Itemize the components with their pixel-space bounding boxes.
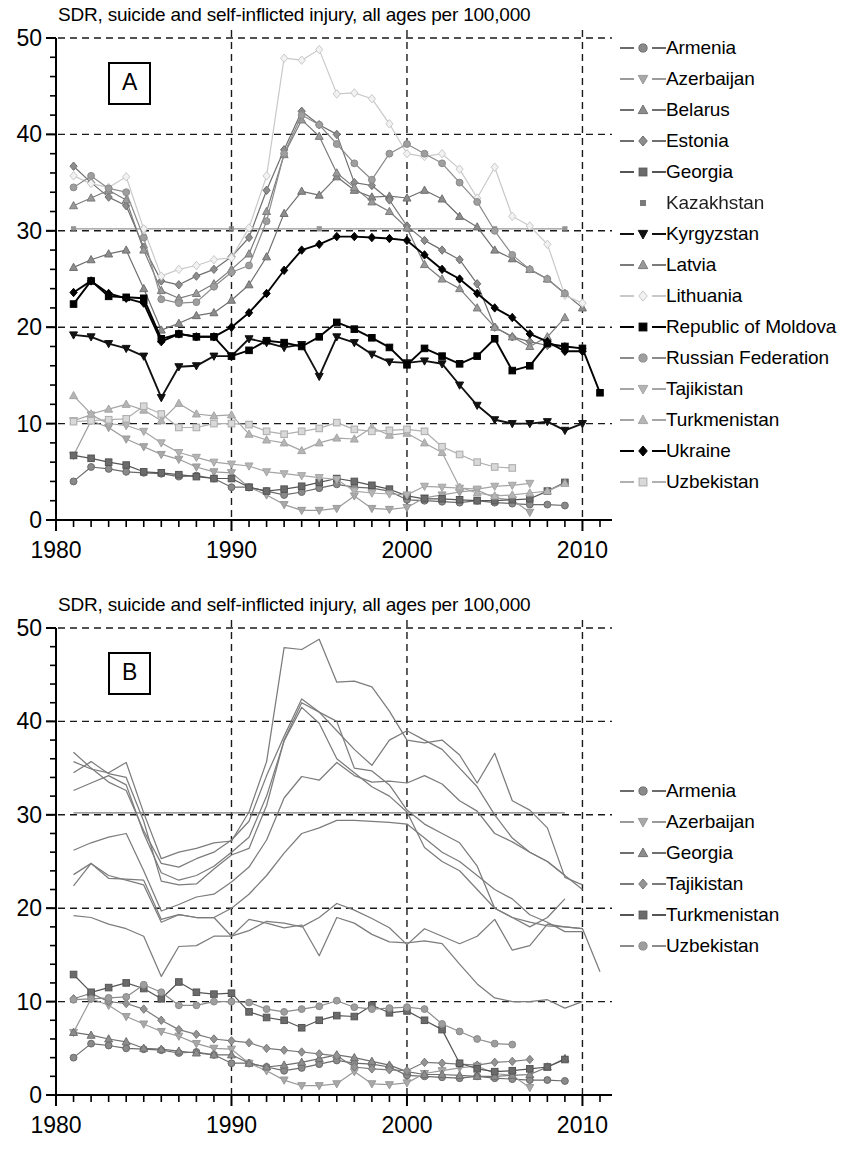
y-tick-label: 10 xyxy=(16,411,42,437)
legend-item-kazakhstan[interactable]: Kazakhstan xyxy=(620,187,836,218)
legend-label: Lithuania xyxy=(666,285,742,307)
y-tick-label: 40 xyxy=(16,121,42,147)
legend-label: Azerbaijan xyxy=(666,811,755,833)
legend-item-uzbekistan[interactable]: Uzbekistan xyxy=(620,466,836,497)
legend-item-kyrgyzstan[interactable]: Kyrgyzstan xyxy=(620,218,836,249)
legend-label: Turkmenistan xyxy=(666,904,779,926)
legend-label: Georgia xyxy=(666,842,733,864)
legend-marker-triangle-down-icon xyxy=(620,70,666,88)
legend-marker-circle-icon xyxy=(620,349,666,367)
plot-area-b: 010203040501980199020002010 xyxy=(0,590,620,1175)
y-tick-label: 30 xyxy=(16,802,42,828)
legend-label: Republic of Moldova xyxy=(666,316,836,338)
legend-marker-triangle-down-filled-icon xyxy=(620,225,666,243)
legend-marker-circle-icon xyxy=(620,937,666,955)
legend-marker-circle-icon xyxy=(620,782,666,800)
legend-item-georgia[interactable]: Georgia xyxy=(620,837,779,868)
x-tick-label: 2010 xyxy=(557,1112,608,1138)
legend-marker-square-icon xyxy=(620,906,666,924)
x-tick-label: 2000 xyxy=(381,1112,432,1138)
legend-item-turkmenistan[interactable]: Turkmenistan xyxy=(620,404,836,435)
legend-label: Tajikistan xyxy=(666,378,743,400)
legend-item-armenia[interactable]: Armenia xyxy=(620,32,836,63)
legend-label: Belarus xyxy=(666,99,730,121)
plot-svg-b: 010203040501980199020002010 xyxy=(0,590,620,1175)
legend-item-republic-of-moldova[interactable]: Republic of Moldova xyxy=(620,311,836,342)
legend-marker-triangle-down-icon xyxy=(620,813,666,831)
legend-item-russian-federation[interactable]: Russian Federation xyxy=(620,342,836,373)
legend-marker-circle-icon xyxy=(620,39,666,57)
y-tick-label: 0 xyxy=(29,1082,42,1108)
legend-item-latvia[interactable]: Latvia xyxy=(620,249,836,280)
legend-label: Kazakhstan xyxy=(666,192,764,214)
legend-marker-triangle-up-icon xyxy=(620,844,666,862)
series-russian-federation xyxy=(70,112,568,307)
legend-label: Uzbekistan xyxy=(666,935,759,957)
legend-marker-diamond-icon xyxy=(620,132,666,150)
legend-marker-diamond-filled-icon xyxy=(620,442,666,460)
legend-a: ArmeniaAzerbaijanBelarusEstoniaGeorgiaKa… xyxy=(620,32,836,497)
legend-item-uzbekistan[interactable]: Uzbekistan xyxy=(620,930,779,961)
legend-item-armenia[interactable]: Armenia xyxy=(620,775,779,806)
background-line xyxy=(74,703,565,885)
y-tick-label: 20 xyxy=(16,314,42,340)
y-tick-label: 10 xyxy=(16,989,42,1015)
legend-label: Armenia xyxy=(666,37,736,59)
legend-b: ArmeniaAzerbaijanGeorgiaTajikistanTurkme… xyxy=(620,775,779,961)
legend-marker-triangle-up-icon xyxy=(620,101,666,119)
background-line xyxy=(74,916,583,1008)
series-kyrgyzstan xyxy=(70,332,587,435)
panel-tag-b: B xyxy=(108,652,151,695)
x-tick-label: 1980 xyxy=(30,1112,81,1138)
chart-panel-b: SDR, suicide and self-inflicted injury, … xyxy=(0,590,859,1175)
legend-item-turkmenistan[interactable]: Turkmenistan xyxy=(620,899,779,930)
legend-label: Tajikistan xyxy=(666,873,743,895)
legend-marker-square-filled-icon xyxy=(620,318,666,336)
legend-label: Latvia xyxy=(666,254,716,276)
legend-label: Armenia xyxy=(666,780,736,802)
legend-item-tajikistan[interactable]: Tajikistan xyxy=(620,868,779,899)
legend-label: Estonia xyxy=(666,130,729,152)
legend-item-tajikistan[interactable]: Tajikistan xyxy=(620,373,836,404)
x-tick-label: 2000 xyxy=(381,537,432,563)
series-uzbekistan xyxy=(70,981,516,1048)
legend-marker-triangle-up-icon xyxy=(620,256,666,274)
legend-marker-diamond-icon xyxy=(620,875,666,893)
chart-panel-a: SDR, suicide and self-inflicted injury, … xyxy=(0,0,859,570)
x-tick-label: 1990 xyxy=(206,1112,257,1138)
data-series-group xyxy=(70,45,604,516)
legend-label: Azerbaijan xyxy=(666,68,755,90)
legend-label: Turkmenistan xyxy=(666,409,779,431)
legend-item-lithuania[interactable]: Lithuania xyxy=(620,280,836,311)
y-tick-label: 20 xyxy=(16,895,42,921)
legend-item-azerbaijan[interactable]: Azerbaijan xyxy=(620,806,779,837)
x-tick-label: 1980 xyxy=(30,537,81,563)
x-tick-label: 2010 xyxy=(557,537,608,563)
legend-item-georgia[interactable]: Georgia xyxy=(620,156,836,187)
legend-label: Russian Federation xyxy=(666,347,829,369)
plot-area-a: 010203040501980199020002010 xyxy=(0,0,620,574)
y-tick-label: 50 xyxy=(16,615,42,641)
legend-item-azerbaijan[interactable]: Azerbaijan xyxy=(620,63,836,94)
legend-item-estonia[interactable]: Estonia xyxy=(620,125,836,156)
legend-marker-small-square-icon xyxy=(620,194,666,212)
background-series xyxy=(74,639,601,1008)
legend-marker-diamond-open-icon xyxy=(620,287,666,305)
y-tick-label: 0 xyxy=(29,507,42,533)
y-tick-label: 50 xyxy=(16,25,42,51)
legend-label: Ukraine xyxy=(666,440,731,462)
legend-item-belarus[interactable]: Belarus xyxy=(620,94,836,125)
panel-tag-a: A xyxy=(108,62,151,105)
legend-label: Kyrgyzstan xyxy=(666,223,759,245)
legend-marker-square-open-icon xyxy=(620,473,666,491)
x-tick-label: 1990 xyxy=(206,537,257,563)
legend-marker-triangle-down-icon xyxy=(620,380,666,398)
y-tick-label: 30 xyxy=(16,218,42,244)
data-series-group xyxy=(70,971,569,1091)
legend-marker-square-icon xyxy=(620,163,666,181)
series-uzbekistan xyxy=(70,403,515,471)
background-line xyxy=(74,707,565,927)
legend-marker-triangle-up-icon xyxy=(620,411,666,429)
y-tick-label: 40 xyxy=(16,708,42,734)
legend-item-ukraine[interactable]: Ukraine xyxy=(620,435,836,466)
